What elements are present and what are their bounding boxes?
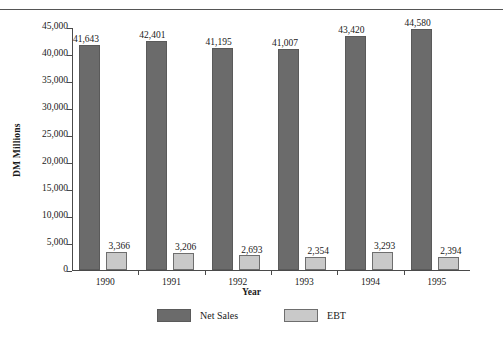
bar-net-sales: 44,580 (411, 29, 432, 270)
bar-group: 44,5802,394 (72, 28, 470, 270)
bar-value-label: 44,580 (405, 19, 431, 29)
x-axis-tick (271, 271, 272, 275)
x-axis-tick-label: 1995 (427, 277, 446, 287)
y-axis-tick-label: 0 (63, 264, 68, 274)
y-axis-tick-label: 10,000 (42, 210, 68, 220)
y-axis-tick-label: 20,000 (42, 156, 68, 166)
legend-label-net-sales: Net Sales (200, 310, 238, 321)
x-axis-tick-label: 1993 (295, 277, 314, 287)
y-axis-tick-label: 15,000 (42, 183, 68, 193)
plot-area: 05,00010,00015,00020,00025,00030,00035,0… (72, 28, 470, 271)
y-axis-tick-label: 35,000 (42, 75, 68, 85)
x-axis-tick-label: 1990 (96, 277, 115, 287)
y-axis-tick-label: 40,000 (42, 48, 68, 58)
x-axis-tick-label: 1992 (228, 277, 247, 287)
legend-swatch-net-sales (157, 309, 191, 322)
legend-swatch-ebt (284, 309, 318, 322)
legend-item-ebt: EBT (284, 309, 346, 322)
x-axis-tick (404, 271, 405, 275)
y-axis-tick-label: 30,000 (42, 102, 68, 112)
y-axis-tick-label: 45,000 (42, 21, 68, 31)
x-axis-title: Year (0, 287, 503, 297)
chart-legend: Net Sales EBT (0, 309, 503, 322)
x-axis-tick-label: 1994 (361, 277, 380, 287)
legend-item-net-sales: Net Sales (157, 309, 238, 322)
x-axis-tick (337, 271, 338, 275)
x-axis-tick-label: 1991 (162, 277, 181, 287)
y-axis-tick-label: 5,000 (47, 237, 68, 247)
y-axis-tick-label: 25,000 (42, 129, 68, 139)
bar-value-label: 2,394 (440, 247, 461, 257)
chart-figure: DM Millions 05,00010,00015,00020,00025,0… (0, 0, 503, 344)
legend-label-ebt: EBT (327, 310, 346, 321)
x-axis-tick (205, 271, 206, 275)
y-axis-title: DM Millions (8, 90, 26, 210)
header-divider (0, 9, 503, 10)
x-axis-tick (138, 271, 139, 275)
bar-ebt: 2,394 (438, 257, 459, 270)
